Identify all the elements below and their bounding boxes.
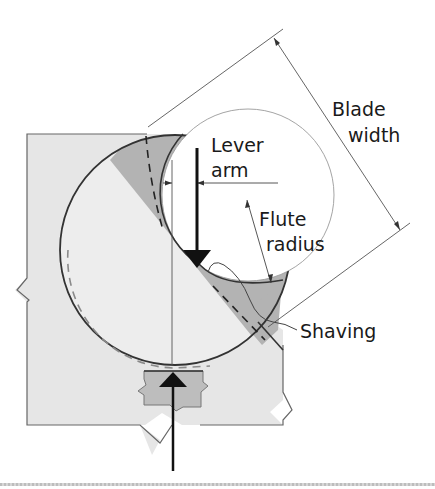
label-flute-radius-2: radius [266, 233, 325, 255]
label-blade-width-2: width [348, 124, 400, 146]
bottom-divider [0, 483, 435, 486]
label-shaving: Shaving [300, 320, 376, 342]
label-flute-radius-1: Flute [259, 208, 306, 230]
label-blade-width-1: Blade [332, 98, 386, 120]
flute-diagram: Blade width Lever arm Flute radius Shavi… [0, 0, 435, 489]
label-lever-arm-1: Lever [211, 134, 264, 156]
blade-width-arrow-top [274, 38, 280, 46]
label-lever-arm-2: arm [211, 159, 249, 181]
